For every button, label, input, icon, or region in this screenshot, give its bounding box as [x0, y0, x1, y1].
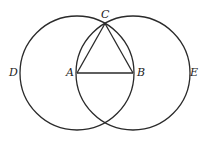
- diagram-canvas: C A B D E: [0, 0, 207, 143]
- construction-drawing: [0, 0, 207, 143]
- label-E: E: [190, 67, 198, 78]
- label-C: C: [101, 9, 109, 20]
- label-B: B: [137, 67, 145, 78]
- label-D: D: [9, 67, 18, 78]
- label-A: A: [66, 67, 74, 78]
